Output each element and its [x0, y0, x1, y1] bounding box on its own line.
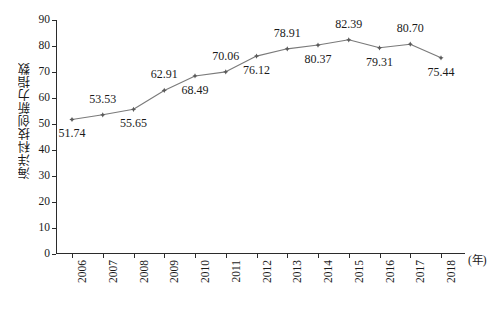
y-tick-mark: [52, 254, 56, 255]
y-tick-label: 80: [39, 40, 51, 52]
data-point-label: 75.44: [428, 66, 455, 78]
x-tick-label: 2014: [323, 260, 335, 283]
data-point-label: 80.37: [305, 53, 332, 65]
x-axis-unit-label: (年): [468, 255, 487, 267]
data-point-marker: [100, 112, 105, 117]
data-point-label: 68.49: [182, 84, 209, 96]
y-tick-label: 70: [39, 66, 51, 78]
data-point-label: 79.31: [366, 56, 393, 68]
chart-figure: 海洋科技创新力指数 0102030405060708090 2006200720…: [0, 0, 491, 313]
data-point-label: 62.91: [151, 68, 178, 80]
x-tick-mark: [103, 254, 104, 258]
x-tick-label: 2015: [354, 260, 366, 283]
data-point-marker: [131, 107, 136, 112]
series-markers: [69, 37, 443, 122]
x-tick-label: 2012: [262, 260, 274, 283]
x-tick-label: 2016: [385, 260, 397, 283]
data-point-marker: [192, 73, 197, 78]
data-point-label: 51.74: [59, 127, 86, 139]
x-tick-label: 2011: [231, 260, 243, 283]
x-tick-mark: [410, 254, 411, 258]
x-tick-label: 2013: [292, 260, 304, 283]
data-point-label: 53.53: [89, 93, 116, 105]
x-tick-mark: [380, 254, 381, 258]
data-point-marker: [315, 42, 320, 47]
y-axis-title: 海洋科技创新力指数: [18, 62, 34, 179]
y-tick-label: 50: [39, 118, 51, 130]
x-tick-label: 2009: [169, 260, 181, 283]
x-tick-label: 2007: [108, 260, 120, 283]
series-polyline: [72, 40, 441, 120]
data-point-marker: [254, 53, 259, 58]
x-tick-mark: [226, 254, 227, 258]
x-tick-mark: [164, 254, 165, 258]
x-tick-mark: [441, 254, 442, 258]
x-tick-label: 2010: [200, 260, 212, 283]
data-point-label: 70.06: [212, 50, 239, 62]
data-point-label: 78.91: [274, 27, 301, 39]
data-point-marker: [377, 45, 382, 50]
y-tick-label: 30: [39, 170, 51, 182]
y-tick-label: 90: [39, 14, 51, 26]
data-point-label: 82.39: [335, 18, 362, 30]
x-tick-label: 2017: [415, 260, 427, 283]
x-tick-label: 2008: [139, 260, 151, 283]
y-tick-label: 20: [39, 196, 51, 208]
data-point-marker: [223, 69, 228, 74]
series-line-chart: [56, 20, 465, 254]
x-tick-label: 2018: [446, 260, 458, 283]
y-tick-label: 40: [39, 144, 51, 156]
x-tick-mark: [349, 254, 350, 258]
plot-area: 0102030405060708090 20062007200820092010…: [56, 20, 465, 254]
data-point-marker: [162, 88, 167, 93]
x-tick-mark: [134, 254, 135, 258]
x-tick-mark: [72, 254, 73, 258]
data-point-marker: [408, 42, 413, 47]
y-tick-label: 10: [39, 222, 51, 234]
data-point-marker: [438, 55, 443, 60]
x-tick-label: 2006: [77, 260, 89, 283]
x-tick-mark: [318, 254, 319, 258]
data-point-marker: [69, 117, 74, 122]
data-point-marker: [346, 37, 351, 42]
data-point-label: 80.70: [397, 22, 424, 34]
data-point-label: 76.12: [243, 64, 270, 76]
y-tick-label: 60: [39, 92, 51, 104]
data-point-label: 55.65: [120, 117, 147, 129]
y-tick-label: 0: [44, 248, 50, 260]
data-point-marker: [285, 46, 290, 51]
x-tick-mark: [287, 254, 288, 258]
x-tick-mark: [257, 254, 258, 258]
x-tick-mark: [195, 254, 196, 258]
